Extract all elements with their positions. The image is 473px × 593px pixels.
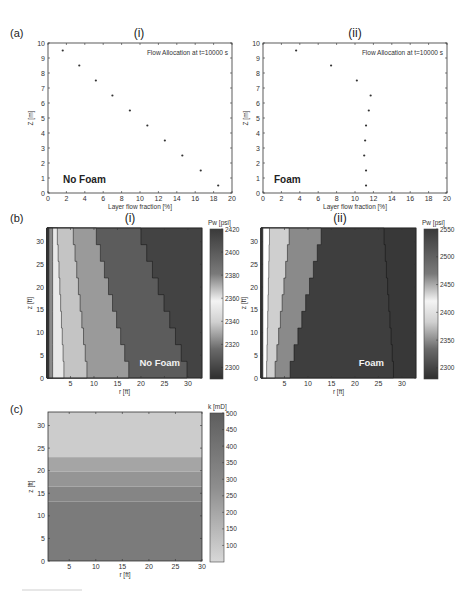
permeability-layer — [48, 472, 202, 487]
y-tick-label: 4 — [256, 130, 260, 137]
x-tick-label: 15 — [118, 563, 126, 570]
x-tick-label: 2 — [279, 195, 283, 202]
colorbar-label: k [mD] — [208, 403, 227, 411]
x-tick-label: 5 — [67, 563, 71, 570]
y-axis-label: z [ft] — [27, 480, 35, 492]
colorbar — [424, 229, 438, 379]
x-tick-label: 14 — [388, 195, 396, 202]
plot-frame — [48, 43, 232, 193]
y-axis-label: z [ft] — [240, 297, 248, 309]
y-tick-label: 5 — [254, 352, 258, 359]
data-point — [356, 79, 358, 81]
colorbar-label: Pw [psi] — [422, 219, 445, 227]
y-tick-label: 10 — [37, 40, 45, 47]
colorbar-tick-label: 2360 — [225, 295, 240, 302]
data-point — [62, 49, 64, 51]
y-tick-label: 30 — [36, 238, 44, 245]
data-point — [295, 49, 297, 51]
y-tick-label: 7 — [41, 85, 45, 92]
colorbar-tick-label: 2380 — [225, 272, 240, 279]
plot-frame — [263, 43, 447, 193]
x-tick-label: 20 — [351, 380, 359, 387]
data-point — [164, 139, 166, 141]
data-point — [363, 154, 365, 156]
y-tick-label: 3 — [41, 145, 45, 152]
x-tick-label: 16 — [191, 195, 199, 202]
y-tick-label: 3 — [256, 145, 260, 152]
colorbar-tick-label: 2340 — [225, 318, 240, 325]
y-tick-label: 8 — [41, 70, 45, 77]
y-tick-label: 15 — [250, 306, 258, 313]
x-tick-label: 5 — [69, 380, 73, 387]
x-tick-label: 10 — [92, 563, 100, 570]
colorbar-label: Pw [psi] — [208, 219, 231, 227]
chart-title: Flow Allocation at t=10000 s — [147, 49, 229, 56]
y-tick-label: 5 — [41, 115, 45, 122]
data-point — [146, 124, 148, 126]
annotation-label: Foam — [359, 357, 384, 368]
chart-title: Flow Allocation at t=10000 s — [362, 49, 444, 56]
y-tick-label: 1 — [256, 175, 260, 182]
colorbar-tick-label: 2320 — [225, 341, 240, 348]
y-axis-label: Z [m] — [242, 110, 250, 125]
permeability-layer — [48, 412, 202, 457]
y-tick-label: 10 — [36, 329, 44, 336]
x-tick-label: 30 — [184, 380, 192, 387]
y-tick-label: 0 — [41, 190, 45, 197]
colorbar-tick-label: 100 — [226, 542, 237, 549]
data-point — [181, 154, 183, 156]
x-tick-label: 6 — [101, 195, 105, 202]
y-tick-label: 30 — [250, 238, 258, 245]
x-axis-label: r [ft] — [119, 571, 130, 579]
scatter-chart-no-foam: 02468101214161820012345678910Layer flow … — [0, 0, 473, 593]
x-tick-label: 10 — [90, 380, 98, 387]
data-point — [129, 109, 131, 111]
data-point — [370, 94, 372, 96]
y-tick-label: 2 — [256, 160, 260, 167]
colorbar-tick-label: 500 — [226, 410, 237, 417]
y-axis-label: Z [m] — [27, 110, 35, 125]
x-tick-label: 25 — [172, 563, 180, 570]
x-tick-label: 8 — [120, 195, 124, 202]
x-tick-label: 30 — [198, 563, 206, 570]
colorbar-tick-label: 2300 — [440, 364, 455, 371]
colorbar — [210, 229, 223, 379]
permeability-layer — [48, 487, 202, 502]
data-point — [95, 79, 97, 81]
annotation-label: No Foam — [139, 357, 180, 368]
x-tick-label: 0 — [46, 195, 50, 202]
x-tick-label: 4 — [298, 195, 302, 202]
x-tick-label: 20 — [137, 380, 145, 387]
y-tick-label: 20 — [37, 467, 45, 474]
y-tick-label: 25 — [250, 261, 258, 268]
x-tick-label: 25 — [161, 380, 169, 387]
y-tick-label: 30 — [37, 422, 45, 429]
x-tick-label: 12 — [370, 195, 378, 202]
colorbar-tick-label: 2400 — [440, 309, 455, 316]
colorbar-tick-label: 400 — [226, 443, 237, 450]
x-tick-label: 4 — [83, 195, 87, 202]
y-tick-label: 0 — [254, 375, 258, 382]
y-tick-label: 7 — [256, 85, 260, 92]
x-tick-label: 20 — [443, 195, 451, 202]
y-axis-label: z [ft] — [26, 297, 34, 309]
y-tick-label: 10 — [250, 329, 258, 336]
x-tick-label: 0 — [261, 195, 265, 202]
x-tick-label: 5 — [283, 380, 287, 387]
data-point — [111, 94, 113, 96]
colorbar-tick-label: 2420 — [225, 226, 240, 233]
data-point — [217, 184, 219, 186]
x-tick-label: 8 — [335, 195, 339, 202]
y-tick-label: 6 — [256, 100, 260, 107]
x-tick-label: 15 — [114, 380, 122, 387]
y-tick-label: 15 — [37, 490, 45, 497]
x-axis-label: Layer flow fraction [%] — [108, 203, 172, 211]
permeability-layer — [48, 457, 202, 471]
y-tick-label: 10 — [252, 40, 260, 47]
y-tick-label: 20 — [36, 284, 44, 291]
permeability-layer — [48, 501, 202, 561]
y-tick-label: 0 — [256, 190, 260, 197]
data-point — [78, 64, 80, 66]
x-tick-label: 2 — [64, 195, 68, 202]
x-tick-label: 20 — [228, 195, 236, 202]
